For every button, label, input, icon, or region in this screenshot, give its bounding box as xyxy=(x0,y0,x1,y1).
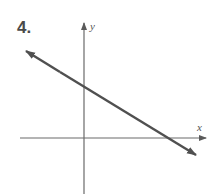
graph-line xyxy=(60,72,196,155)
problem-number: 4. xyxy=(17,18,31,38)
x-axis-label: x xyxy=(197,121,202,133)
graph-figure: 4. y x xyxy=(0,0,221,194)
y-axis-label: y xyxy=(90,20,95,32)
coordinate-plane xyxy=(0,0,221,194)
graph-line xyxy=(26,51,60,72)
